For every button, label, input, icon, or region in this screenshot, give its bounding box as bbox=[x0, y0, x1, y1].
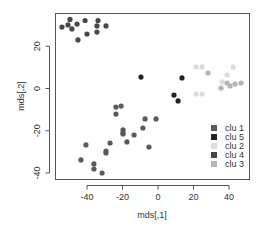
data-point bbox=[175, 98, 180, 103]
x-tick-label: 0 bbox=[155, 192, 160, 202]
y-axis: -40-20020 bbox=[32, 41, 50, 179]
data-point bbox=[99, 170, 104, 175]
data-point bbox=[113, 104, 118, 109]
data-point bbox=[67, 17, 72, 22]
legend-swatch bbox=[211, 125, 217, 131]
y-tick-label: -40 bbox=[32, 166, 42, 179]
data-point bbox=[124, 139, 129, 144]
data-point bbox=[65, 22, 70, 27]
data-point bbox=[84, 31, 89, 36]
data-point bbox=[103, 23, 108, 28]
data-point bbox=[171, 92, 176, 97]
data-points bbox=[59, 17, 243, 176]
data-point bbox=[232, 81, 237, 86]
data-point bbox=[78, 157, 83, 162]
data-point bbox=[199, 91, 204, 96]
x-axis-label: mds[,1] bbox=[137, 210, 167, 220]
data-point bbox=[179, 75, 184, 80]
legend-swatch bbox=[211, 161, 217, 167]
data-point bbox=[95, 18, 100, 23]
data-point bbox=[140, 125, 145, 130]
data-point bbox=[118, 103, 123, 108]
x-tick-label: 20 bbox=[188, 192, 198, 202]
legend-swatch bbox=[211, 134, 217, 140]
legend: clu 1clu 5clu 2clu 4clu 3 bbox=[211, 123, 244, 169]
legend-swatch bbox=[211, 143, 217, 149]
data-point bbox=[107, 140, 112, 145]
data-point bbox=[142, 116, 147, 121]
data-point bbox=[219, 79, 224, 84]
data-point bbox=[224, 72, 229, 77]
data-point bbox=[59, 24, 64, 29]
data-point bbox=[138, 74, 143, 79]
y-tick-label: 20 bbox=[32, 41, 42, 51]
y-tick-label: 0 bbox=[32, 86, 42, 91]
data-point bbox=[103, 150, 108, 155]
legend-swatch bbox=[211, 152, 217, 158]
data-point bbox=[94, 29, 99, 34]
data-point bbox=[91, 166, 96, 171]
data-point bbox=[74, 21, 79, 26]
data-point bbox=[193, 64, 198, 69]
data-point bbox=[94, 23, 99, 28]
data-point bbox=[227, 83, 232, 88]
data-point bbox=[69, 26, 74, 31]
data-point bbox=[131, 132, 136, 137]
x-tick-label: 40 bbox=[224, 192, 234, 202]
x-tick-label: -40 bbox=[80, 192, 93, 202]
data-point bbox=[113, 111, 118, 116]
data-point bbox=[153, 116, 158, 121]
x-axis: -40-2002040 bbox=[80, 186, 234, 203]
data-point bbox=[75, 37, 80, 42]
y-tick-label: -20 bbox=[32, 124, 42, 137]
data-point bbox=[120, 131, 125, 136]
scatter-plot: -40-2002040 -40-20020 mds[,1] mds[,2] cl… bbox=[0, 0, 262, 231]
data-point bbox=[199, 64, 204, 69]
data-point bbox=[230, 64, 235, 69]
legend-label: clu 3 bbox=[225, 159, 244, 169]
data-point bbox=[91, 161, 96, 166]
data-point bbox=[218, 85, 223, 90]
data-point bbox=[193, 91, 198, 96]
data-point bbox=[146, 144, 151, 149]
data-point bbox=[83, 142, 88, 147]
y-axis-label: mds[,2] bbox=[16, 81, 26, 111]
plot-frame bbox=[56, 14, 250, 180]
data-point bbox=[205, 70, 210, 75]
data-point bbox=[82, 18, 87, 23]
data-point bbox=[238, 80, 243, 85]
x-tick-label: -20 bbox=[116, 192, 129, 202]
